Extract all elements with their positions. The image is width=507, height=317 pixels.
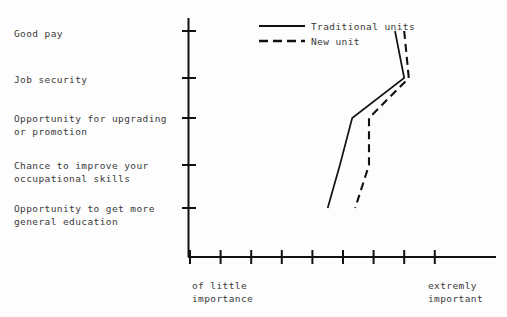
chart-plot-area xyxy=(0,0,507,317)
series-line-traditional-units xyxy=(328,31,405,208)
chart-page: Good pay Job security Opportunity for up… xyxy=(0,0,507,317)
